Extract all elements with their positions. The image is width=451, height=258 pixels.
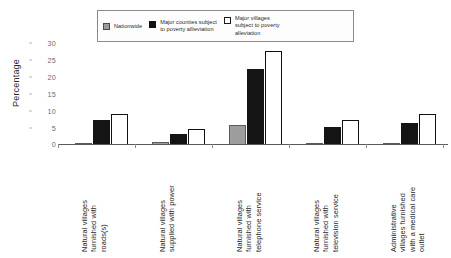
bar-nationwide bbox=[229, 125, 246, 144]
y-tick-15: 15 bbox=[30, 90, 56, 99]
y-tick-0: 0 bbox=[30, 140, 56, 149]
x-tickmark-0 bbox=[58, 144, 59, 148]
x-label-wrap-telephone: Natural villages furnished with telephon… bbox=[235, 151, 313, 255]
x-label-wrap-television: Natural villages furnished with televisi… bbox=[312, 151, 390, 255]
y-tick-5: 5 bbox=[30, 124, 56, 133]
bar-major-villages bbox=[111, 114, 128, 144]
x-label-wrap-power: Natural villages supplied with power bbox=[158, 151, 236, 255]
legend-item-major-counties: Major counties subject to poverty alliev… bbox=[149, 19, 217, 33]
y-tickmark-20 bbox=[29, 77, 32, 78]
legend-item-major-villages: Major villages subject to poverty allevi… bbox=[224, 15, 280, 37]
x-label-wrap-medical: Administrative villages furnished with a… bbox=[389, 151, 451, 255]
y-tickmark-15 bbox=[29, 94, 32, 95]
x-axis-label-television: Natural villages furnished with televisi… bbox=[312, 150, 340, 252]
bar-major-counties bbox=[170, 134, 187, 145]
x-axis-label-power: Natural villages supplied with power bbox=[158, 150, 177, 252]
y-tickmark-10 bbox=[29, 111, 32, 112]
bar-major-counties bbox=[324, 127, 341, 145]
legend-label-major-villages: Major villages subject to poverty allevi… bbox=[235, 15, 280, 37]
x-axis-label-medical: Administrative villages furnished with a… bbox=[389, 150, 427, 252]
y-tickmark-25 bbox=[29, 60, 32, 61]
legend-swatch-gray-icon bbox=[103, 23, 110, 30]
x-tickmark-2 bbox=[212, 144, 213, 148]
plot-area bbox=[58, 39, 448, 144]
bar-major-villages bbox=[188, 129, 205, 144]
x-axis-label-telephone: Natural villages furnished with telephon… bbox=[235, 150, 263, 252]
y-tickmark-30 bbox=[29, 43, 32, 44]
legend-label-major-counties: Major counties subject to poverty alliev… bbox=[160, 19, 217, 33]
bar-major-villages bbox=[342, 120, 359, 145]
legend-swatch-black-icon bbox=[149, 21, 156, 28]
x-tickmark-3 bbox=[289, 144, 290, 148]
y-tickmark-5 bbox=[29, 128, 32, 129]
y-tick-10: 10 bbox=[30, 107, 56, 116]
bar-major-counties bbox=[93, 120, 110, 145]
legend-swatch-white-icon bbox=[224, 17, 231, 24]
legend-label-nationwide: Nationwide bbox=[114, 21, 142, 30]
bar-group-power bbox=[149, 39, 207, 144]
bar-group-telephone bbox=[226, 39, 284, 144]
bar-chart: Nationwide Major counties subject to pov… bbox=[0, 0, 451, 258]
bar-major-villages bbox=[419, 114, 436, 144]
bar-major-villages bbox=[265, 51, 282, 144]
x-tickmark-1 bbox=[135, 144, 136, 148]
x-axis-line bbox=[58, 144, 448, 145]
x-axis-label-roads: Natural villages furnished with roads(s) bbox=[80, 150, 108, 252]
chart-legend: Nationwide Major counties subject to pov… bbox=[97, 10, 354, 42]
y-axis-ticks: 30 25 20 15 10 5 0 bbox=[28, 0, 56, 258]
bar-group-medical bbox=[380, 39, 438, 144]
x-tickmark-4 bbox=[366, 144, 367, 148]
bar-major-counties bbox=[247, 69, 264, 144]
y-tick-25: 25 bbox=[30, 56, 56, 65]
x-tickmark-5 bbox=[443, 144, 444, 148]
bar-group-roads bbox=[72, 39, 130, 144]
legend-item-nationwide: Nationwide bbox=[103, 21, 142, 30]
bar-major-counties bbox=[401, 123, 418, 144]
y-tick-20: 20 bbox=[30, 73, 56, 82]
y-axis-label: Percentage bbox=[11, 48, 21, 118]
bar-group-television bbox=[303, 39, 361, 144]
x-label-wrap-roads: Natural villages furnished with roads(s) bbox=[80, 151, 158, 255]
y-tick-30: 30 bbox=[30, 39, 56, 48]
